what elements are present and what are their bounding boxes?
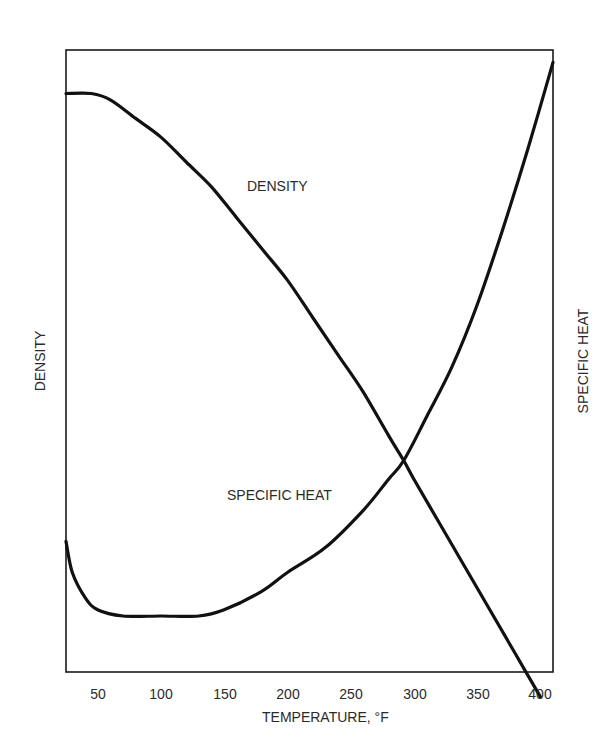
plot-frame — [66, 50, 553, 672]
x-tick-label: 350 — [466, 686, 490, 702]
x-axis-ticks: 50 100 150 200 250 300 350 400 — [90, 686, 552, 702]
x-axis-title: TEMPERATURE, °F — [262, 709, 389, 725]
left-axis-title: DENSITY — [32, 330, 48, 391]
x-tick-label: 100 — [149, 686, 173, 702]
x-tick-label: 400 — [528, 686, 552, 702]
x-tick-label: 150 — [213, 686, 237, 702]
x-tick-label: 300 — [403, 686, 427, 702]
x-tick-label: 50 — [90, 686, 106, 702]
right-axis-title: SPECIFIC HEAT — [575, 308, 591, 413]
x-tick-label: 250 — [339, 686, 363, 702]
x-tick-label: 200 — [276, 686, 300, 702]
chart: DENSITY SPECIFIC HEAT 50 100 150 200 250… — [0, 0, 605, 745]
specific-heat-curve-label: SPECIFIC HEAT — [227, 487, 332, 503]
specific-heat-curve — [66, 62, 553, 616]
density-curve-label: DENSITY — [247, 178, 308, 194]
